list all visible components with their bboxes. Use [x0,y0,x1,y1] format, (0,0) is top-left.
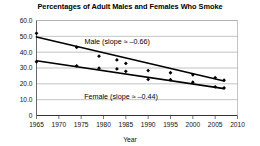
x-axis-tick-label: 1990 [141,121,156,128]
x-axis-tick-label: 2005 [208,121,223,128]
x-axis-tick-label: 1995 [163,121,178,128]
annotation-female: Female (slope ≈ –0.44) [84,92,158,101]
data-point-female [115,67,119,71]
smoking-percentages-chart: Percentages of Adult Males and Females W… [0,0,260,146]
x-axis-tick-label: 2000 [185,121,200,128]
data-point-male [115,58,119,62]
x-axis-tick-labels: 1965197019751980198519901995200020052010 [29,121,245,128]
y-axis-tick-label: 40.0 [20,49,33,56]
y-axis-tick-label: 0 [29,112,33,119]
data-point-male [124,62,128,66]
y-axis-tick-labels: 010.020.030.040.050.060.0 [20,17,33,119]
annotation-male: Male (slope ≈ –0.66) [85,37,150,46]
data-point-female [124,69,128,73]
x-axis-title: Year [123,136,137,143]
x-axis-tick-label: 1965 [29,121,44,128]
y-axis-tick-label: 30.0 [20,64,33,71]
data-point-male [146,69,150,73]
y-axis-tick-label: 50.0 [20,33,33,40]
x-axis-tick-label: 1980 [96,121,111,128]
y-axis-tick-label: 60.0 [20,17,33,24]
y-axis-tick-label: 20.0 [20,80,33,87]
x-axis-tick-label: 1985 [118,121,133,128]
x-axis-tick-label: 1975 [74,121,89,128]
data-point-male [97,54,101,58]
data-point-male [169,71,173,75]
data-point-male [35,31,39,35]
data-point-female [222,86,226,90]
chart-plot-area: 010.020.030.040.050.060.0 19651970197519… [0,0,260,146]
y-axis-tick-label: 10.0 [20,96,33,103]
x-axis-tick-label: 1970 [51,121,66,128]
x-axis-tick-label: 2010 [230,121,245,128]
